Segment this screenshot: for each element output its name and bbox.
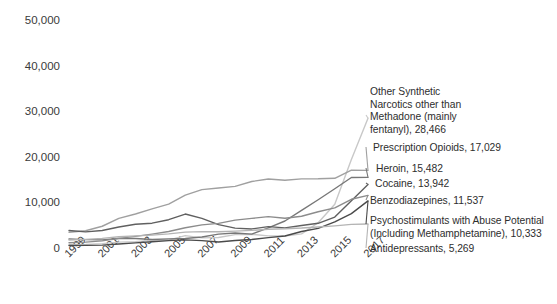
x-axis-tick-label: 1999 <box>62 234 88 260</box>
chart-page: 010,00020,00030,00040,00050,000 19992001… <box>0 0 557 304</box>
x-axis-tick-label: 2015 <box>328 234 354 260</box>
series-group <box>69 118 368 245</box>
y-axis-tick-label: 30,000 <box>25 105 60 117</box>
label-heroin: Heroin, 15,482 <box>376 163 443 176</box>
label-antidepressants: Antidepressants, 5,269 <box>370 243 474 256</box>
label-other-synthetic-narcotics: Other Synthetic Narcotics other than Met… <box>370 86 461 136</box>
y-axis-tick-label: 40,000 <box>25 60 60 72</box>
x-axis-tick-label: 2005 <box>162 234 188 260</box>
x-axis-tick-label: 2009 <box>228 234 254 260</box>
label-prescription-opioids: Prescription Opioids, 17,029 <box>373 142 501 155</box>
y-axis-tick-group: 010,00020,00030,00040,00050,000 <box>25 14 60 254</box>
y-axis-tick-label: 20,000 <box>25 151 60 163</box>
y-axis-tick-label: 50,000 <box>25 14 60 26</box>
label-psychostimulants: Psychostimulants with Abuse Potential (I… <box>370 215 544 240</box>
series-line <box>69 184 368 231</box>
y-axis-tick-label: 0 <box>54 242 60 254</box>
label-benzodiazepines: Benzodiazepines, 11,537 <box>370 195 484 208</box>
series-line <box>69 177 368 239</box>
y-axis-tick-label: 10,000 <box>25 196 60 208</box>
x-axis-tick-label: 2003 <box>128 234 154 260</box>
label-cocaine: Cocaine, 13,942 <box>375 178 449 191</box>
series-line <box>69 118 368 244</box>
x-axis-tick-label: 2013 <box>294 234 320 260</box>
endpoint-label-group: Other Synthetic Narcotics other than Met… <box>368 0 557 304</box>
